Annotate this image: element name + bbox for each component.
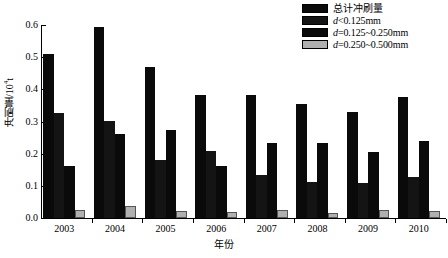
bar bbox=[145, 67, 156, 218]
bar bbox=[379, 210, 390, 218]
bar bbox=[296, 104, 307, 218]
x-axis-tick-mark bbox=[92, 219, 93, 223]
y-axis-tick-mark bbox=[42, 25, 46, 26]
x-axis-title: 年份 bbox=[0, 236, 448, 251]
bar bbox=[166, 130, 177, 218]
bar bbox=[429, 211, 440, 218]
bar bbox=[408, 177, 419, 218]
x-axis-tick-label: 2007 bbox=[257, 223, 277, 234]
bar bbox=[328, 213, 339, 218]
x-axis-tick-label: 2009 bbox=[358, 223, 378, 234]
x-axis-tick-label: 2003 bbox=[54, 223, 74, 234]
x-axis-tick-label: 2005 bbox=[156, 223, 176, 234]
bar bbox=[64, 166, 75, 218]
bar bbox=[368, 152, 379, 218]
bar bbox=[104, 121, 115, 218]
x-axis-tick-mark bbox=[345, 219, 346, 223]
y-axis-line bbox=[41, 25, 42, 219]
bar bbox=[419, 141, 430, 218]
bar bbox=[115, 134, 126, 218]
bar bbox=[227, 212, 238, 218]
bar bbox=[195, 95, 206, 218]
bar bbox=[43, 54, 54, 218]
bar bbox=[358, 183, 369, 218]
bar bbox=[277, 210, 288, 218]
bar bbox=[307, 182, 318, 218]
bar bbox=[347, 112, 358, 218]
bar bbox=[206, 151, 217, 218]
x-axis-tick-label: 2004 bbox=[105, 223, 125, 234]
x-axis-tick-mark bbox=[294, 219, 295, 223]
bar bbox=[317, 143, 328, 218]
x-axis-tick-label: 2010 bbox=[409, 223, 429, 234]
bar bbox=[54, 113, 65, 218]
bar bbox=[216, 166, 227, 218]
x-axis-tick-label: 2006 bbox=[206, 223, 226, 234]
x-axis-tick-mark bbox=[244, 219, 245, 223]
bar bbox=[246, 95, 257, 218]
plot-area bbox=[0, 0, 448, 258]
bar bbox=[256, 175, 267, 218]
x-axis-tick-mark bbox=[142, 219, 143, 223]
x-axis-tick-mark bbox=[193, 219, 194, 223]
x-axis-tick-mark bbox=[446, 219, 447, 223]
x-axis-tick-mark bbox=[395, 219, 396, 223]
bar bbox=[125, 206, 136, 218]
bar bbox=[155, 160, 166, 218]
bar bbox=[398, 97, 409, 218]
bar bbox=[94, 27, 105, 218]
x-axis-tick-label: 2008 bbox=[307, 223, 327, 234]
bar-chart-figure: 总计冲刷量 d<0.125mm d=0.125~0.250mm d=0.250~… bbox=[0, 0, 448, 258]
bar bbox=[75, 210, 86, 218]
bar bbox=[267, 143, 278, 218]
bar bbox=[176, 211, 187, 218]
